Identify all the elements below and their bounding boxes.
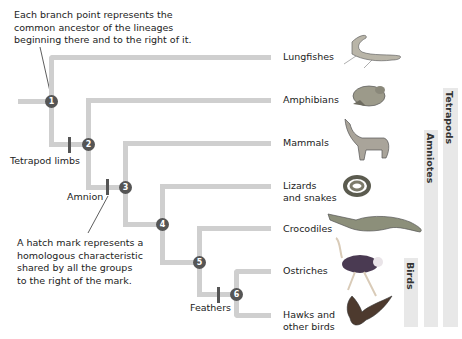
frog-illustration-icon [353, 86, 385, 106]
animal-illustrations [0, 0, 462, 339]
snake-illustration-icon [345, 177, 369, 195]
clade-label-birds: Birds [405, 262, 416, 290]
ostrich-illustration-icon [336, 238, 383, 296]
clade-label-amniotes: Amniotes [425, 133, 436, 183]
hawk-illustration-icon [347, 296, 392, 325]
clade-label-tetrapods: Tetrapods [444, 91, 455, 144]
lungfish-illustration-icon [344, 35, 401, 68]
wolf-illustration-icon [345, 119, 389, 160]
crocodile-illustration-icon [328, 214, 421, 232]
